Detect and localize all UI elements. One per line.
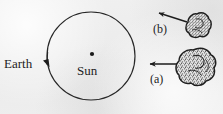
earth-orbit-circle — [47, 12, 135, 100]
comet-b-label: (b) — [153, 23, 167, 35]
earth-label: Earth — [4, 57, 32, 70]
comet-a-body — [176, 48, 216, 85]
astronomy-orbit-figure: Earth Sun (a) (b) — [0, 0, 223, 114]
sun-dot — [90, 52, 94, 56]
sun-label: Sun — [77, 64, 97, 77]
earth-direction-arrow — [43, 52, 50, 67]
figure-vector-layer — [0, 0, 223, 114]
comet-b-velocity-arrow — [159, 13, 187, 22]
comet-a-label: (a) — [150, 73, 163, 85]
comet-b-body — [186, 13, 211, 38]
